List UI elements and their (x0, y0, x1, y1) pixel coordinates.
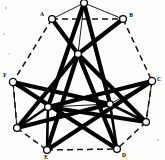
node-label-c: C (157, 76, 161, 82)
graph-canvas: ABFCED (0, 0, 165, 160)
paper-speck (3, 33, 5, 35)
node-label-f: F (3, 72, 7, 78)
edge-dashed (117, 122, 146, 149)
node-label-b: B (129, 12, 133, 18)
edge-thin (146, 81, 152, 122)
edge-thin (84, 3, 123, 19)
edge-thick (78, 19, 123, 54)
graph-node-c[interactable] (148, 77, 155, 84)
edge-dashed (13, 19, 52, 82)
thick-edge-layer (13, 3, 152, 150)
graph-node-a[interactable] (49, 16, 56, 23)
edge-dashed (47, 149, 117, 150)
graph-node-d[interactable] (114, 146, 121, 153)
graph-node[interactable] (143, 119, 150, 126)
node-label-a: A (40, 11, 44, 17)
node-label-e: E (44, 154, 48, 160)
paper-speck (157, 139, 159, 141)
node-label-d: D (122, 152, 126, 158)
graph-node[interactable] (45, 104, 52, 111)
graph-node-e[interactable] (44, 147, 51, 154)
graph-node[interactable] (81, 0, 88, 6)
graph-node-b[interactable] (120, 16, 127, 23)
graph-node[interactable] (14, 125, 21, 132)
graph-node[interactable] (75, 51, 82, 58)
paper-speck (8, 53, 10, 55)
graph-node-f[interactable] (9, 78, 16, 85)
paper-speck (5, 7, 7, 9)
edge-dashed (123, 19, 152, 81)
node-layer (9, 0, 155, 153)
edge-thick (84, 3, 110, 104)
graph-node[interactable] (107, 101, 113, 107)
graph-diagram-figure: ABFCED (0, 0, 165, 160)
edge-thin (13, 82, 17, 128)
edge-dashed (17, 128, 47, 150)
